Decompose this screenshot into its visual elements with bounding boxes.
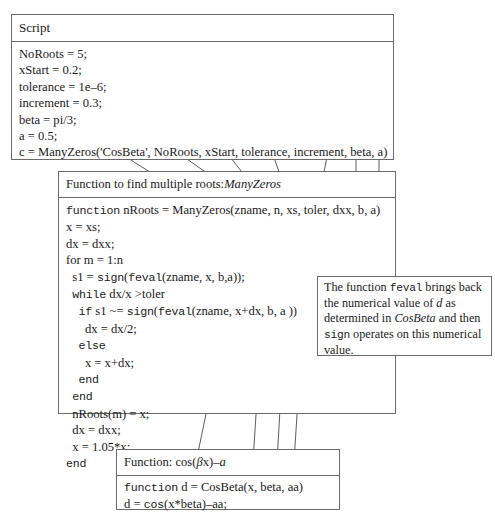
cosbeta-header-a-symbol: a [220,455,226,470]
cosbeta-header-mid: x)– [203,455,220,470]
manyzeros-code-line-8-seg-1: else [79,339,106,352]
cosbeta-code-line-1-seg-2: (x*beta)–aa; [164,497,227,511]
cosbeta-body: function d = CosBeta(x, beta, aa)d = cos… [117,476,339,517]
script-box: Script NoRoots = 5;xStart = 0.2;toleranc… [11,14,394,160]
script-code-line-0-seg-0: NoRoots = 5; [19,47,87,61]
manyzeros-code-line-3-seg-0: for m = 1:n [66,253,123,267]
manyzeros-code-line: end [66,371,388,388]
manyzeros-code-line-6-seg-6: (zname, x+dx, b, a )) [192,304,297,318]
manyzeros-code-line-10-seg-0 [66,372,79,386]
script-box-header-label: Script [19,20,50,36]
manyzeros-code-line-0-seg-0: function [66,204,120,217]
cosbeta-code-line: function d = CosBeta(x, beta, aa) [124,479,332,496]
script-code-line-1-seg-0: xStart = 0.2; [19,63,82,77]
script-code-line-2-seg-0: tolerance = 1e–6; [19,80,107,94]
script-code-line-3-seg-0: increment = 0.3; [19,96,102,110]
cosbeta-code-line-0-seg-1: d = CosBeta(x, beta, aa) [178,480,303,494]
manyzeros-header: Function to find multiple roots: ManyZer… [59,172,395,198]
script-box-header: Script [12,15,393,42]
manyzeros-code-line-6-seg-3: sign [127,305,154,318]
manyzeros-code-line: end [66,388,388,405]
script-code-line: a = 0.5; [19,128,386,144]
cosbeta-code-line-1-seg-0: d = [124,497,144,511]
manyzeros-code-line-9-seg-0: x = x+dx; [66,356,134,370]
script-code-line: NoRoots = 5; [19,46,386,62]
script-box-body: NoRoots = 5;xStart = 0.2;tolerance = 1e–… [12,42,393,164]
manyzeros-code-line-6-seg-5: feval [158,305,192,318]
manyzeros-code-line-10-seg-1: end [79,373,99,386]
manyzeros-code-line-5-seg-2: dx/x >toler [106,287,165,301]
manyzeros-code-line-15-seg-1: end [66,457,86,470]
script-code-line-6-seg-0: c = ManyZeros('CosBeta', NoRoots, xStart… [19,145,387,159]
manyzeros-code-line-8-seg-0 [66,338,79,352]
manyzeros-code-line-5-seg-1: while [72,288,106,301]
cosbeta-code-line-1-seg-1: cos [144,498,164,511]
manyzeros-code-line-13-seg-0: dx = dxx; [66,423,121,437]
manyzeros-code-line-4-seg-4: (zname, x, b,a)); [162,270,245,284]
manyzeros-code-line-2-seg-0: dx = dxx; [66,237,114,251]
note-segment-5: CosBeta [394,311,435,325]
cosbeta-code-line: d = cos(x*beta)–aa; [124,496,332,513]
manyzeros-code-line-1-seg-0: x = xs; [66,220,100,234]
manyzeros-code-line-4-seg-1: sign [97,271,124,284]
script-code-line-5-seg-0: a = 0.5; [19,129,57,143]
manyzeros-code-line-6-seg-1: if [79,305,93,318]
script-code-line: c = ManyZeros('CosBeta', NoRoots, xStart… [19,144,386,160]
note-segment-6: and then [436,311,481,325]
note-segment-0: The function [324,280,390,294]
cosbeta-function-box: Function: cos(βx)–a function d = CosBeta… [116,449,340,510]
manyzeros-code-line-6-seg-2: s1 ~= [92,304,127,318]
manyzeros-header-name: ManyZeros [224,177,281,192]
manyzeros-code-line-6-seg-0 [66,304,79,318]
script-code-line: tolerance = 1e–6; [19,79,386,95]
manyzeros-header-prefix: Function to find multiple roots: [66,177,224,192]
manyzeros-code-line-0-seg-1: nRoots = ManyZeros(zname, n, xs, toler, … [120,203,380,217]
manyzeros-code-line-11-seg-1: end [72,390,92,403]
manyzeros-code-line: x = xs; [66,219,388,235]
manyzeros-code-line: for m = 1:n [66,252,388,268]
feval-explanation-note: The function feval brings back the numer… [317,276,492,356]
diagram-canvas: Script NoRoots = 5;xStart = 0.2;toleranc… [0,0,495,528]
manyzeros-code-line: function nRoots = ManyZeros(zname, n, xs… [66,202,388,219]
note-segment-7: sign [324,329,350,341]
manyzeros-code-line-4-seg-3: feval [128,271,162,284]
cosbeta-header: Function: cos(βx)–a [117,450,339,476]
script-code-line: xStart = 0.2; [19,62,386,78]
note-segment-1: feval [390,282,423,294]
manyzeros-code-line: dx = dxx; [66,422,388,438]
manyzeros-code-line-7-seg-0: dx = dx/2; [66,322,137,336]
manyzeros-code-line: nRoots(m) = x; [66,406,388,422]
script-code-line-4-seg-0: beta = pi/3; [19,113,76,127]
script-code-line: increment = 0.3; [19,95,386,111]
manyzeros-code-line-12-seg-0: nRoots(m) = x; [66,407,149,421]
cosbeta-header-prefix: Function: cos( [124,455,196,470]
manyzeros-code-line-4-seg-0: s1 = [66,270,97,284]
manyzeros-code-line: dx = dxx; [66,236,388,252]
script-code-line: beta = pi/3; [19,112,386,128]
cosbeta-code-line-0-seg-0: function [124,481,178,494]
